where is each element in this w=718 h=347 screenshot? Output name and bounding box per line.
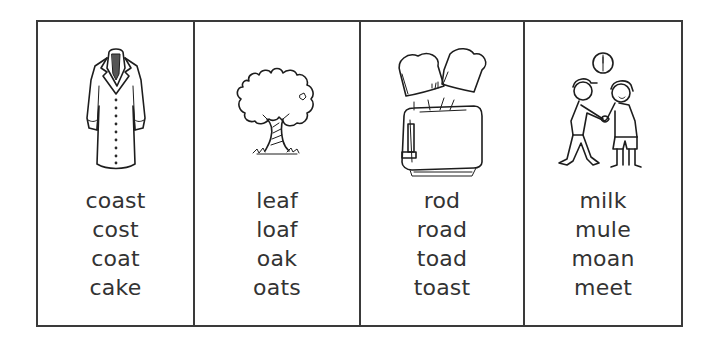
- word: coast: [38, 186, 193, 215]
- word: leaf: [195, 186, 359, 215]
- card-boys-meeting: milk mule moan meet: [525, 22, 681, 325]
- oak-tree-icon: [227, 59, 327, 164]
- card-coat: coast cost coat cake: [38, 22, 195, 325]
- word: loaf: [195, 215, 359, 244]
- word: toad: [361, 244, 523, 273]
- word-list: leaf loaf oak oats: [195, 186, 359, 302]
- picture-area: [195, 36, 359, 186]
- toaster-toast-icon: [392, 44, 492, 179]
- word: mule: [525, 215, 681, 244]
- word-list: milk mule moan meet: [525, 186, 681, 302]
- word: toast: [361, 273, 523, 302]
- word: oats: [195, 273, 359, 302]
- word: cost: [38, 215, 193, 244]
- boys-meeting-icon: [553, 49, 653, 174]
- word-list: coast cost coat cake: [38, 186, 193, 302]
- card-oak-tree: leaf loaf oak oats: [195, 22, 361, 325]
- word: moan: [525, 244, 681, 273]
- word: milk: [525, 186, 681, 215]
- word-picture-grid: coast cost coat cake lea: [36, 20, 683, 327]
- word: meet: [525, 273, 681, 302]
- word-list: rod road toad toast: [361, 186, 523, 302]
- coat-icon: [81, 46, 151, 176]
- word: oak: [195, 244, 359, 273]
- card-toaster: rod road toad toast: [361, 22, 525, 325]
- word: rod: [361, 186, 523, 215]
- word: road: [361, 215, 523, 244]
- picture-area: [361, 36, 523, 186]
- picture-area: [525, 36, 681, 186]
- word: coat: [38, 244, 193, 273]
- picture-area: [38, 36, 193, 186]
- word: cake: [38, 273, 193, 302]
